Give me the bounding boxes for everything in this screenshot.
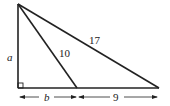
arrow-right-icon: [152, 95, 158, 99]
label-a: a: [7, 51, 13, 63]
hypotenuse: [18, 4, 159, 88]
arrow-right-icon: [71, 95, 77, 99]
label-hypotenuse: 17: [89, 34, 101, 46]
label-9: 9: [113, 91, 119, 103]
arrow-left-icon: [19, 95, 25, 99]
triangle-diagram: a 10 17 b 9: [0, 0, 170, 106]
label-b: b: [44, 91, 50, 103]
arrow-left-icon: [78, 95, 84, 99]
cevian: [18, 4, 77, 88]
label-cevian: 10: [59, 47, 71, 59]
